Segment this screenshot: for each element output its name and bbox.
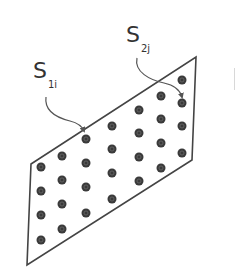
- dot: [135, 177, 144, 186]
- diagram-canvas: [0, 0, 236, 279]
- label-s1i-main: S: [33, 58, 47, 83]
- dot: [37, 211, 46, 220]
- dot: [82, 183, 91, 192]
- label-s2j-subscript: 2j: [141, 43, 150, 54]
- dot: [82, 209, 91, 218]
- dot: [178, 149, 187, 158]
- dot: [82, 135, 91, 144]
- dot: [108, 145, 117, 154]
- dot: [108, 169, 117, 178]
- dot: [178, 76, 187, 85]
- dot: [178, 122, 187, 131]
- dot: [58, 225, 67, 234]
- edge-mark: [234, 68, 235, 90]
- label-s1i: S1i: [33, 60, 56, 82]
- dot: [37, 187, 46, 196]
- dot: [135, 153, 144, 162]
- dot: [37, 163, 46, 172]
- dot: [157, 92, 166, 101]
- dot: [157, 139, 166, 148]
- dot: [135, 106, 144, 115]
- dot: [58, 176, 67, 185]
- dot: [157, 164, 166, 173]
- dot: [178, 99, 187, 108]
- arrow-s1i-icon: [46, 97, 84, 131]
- label-s2j-main: S: [126, 22, 140, 47]
- diagram-figure: S1i S2j: [0, 0, 236, 279]
- dot: [157, 115, 166, 124]
- dot: [37, 236, 46, 245]
- dot: [135, 129, 144, 138]
- dot: [108, 195, 117, 204]
- dot: [58, 152, 67, 161]
- dot: [58, 200, 67, 209]
- label-s1i-subscript: 1i: [48, 79, 57, 90]
- dot: [82, 159, 91, 168]
- dot-grid: [37, 76, 187, 245]
- label-s2j: S2j: [126, 24, 149, 46]
- dot: [108, 122, 117, 131]
